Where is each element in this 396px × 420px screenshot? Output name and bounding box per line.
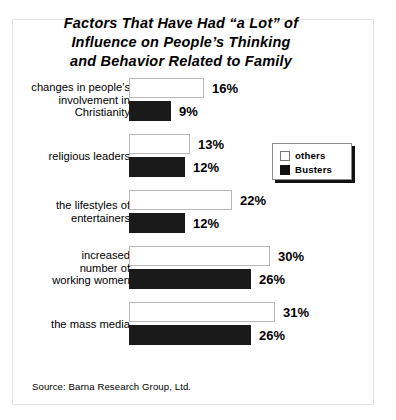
bar-value-busters: 26%: [259, 272, 285, 287]
chart-title-line-1: Factors That Have Had “a Lot” of: [20, 14, 342, 33]
bar-value-busters: 9%: [179, 104, 198, 119]
bar-others: [129, 246, 270, 266]
category-label: changes in people’s involvement in Chris…: [10, 81, 130, 119]
category-label: religious leaders: [10, 150, 130, 163]
bar-value-others: 31%: [283, 305, 309, 320]
bar-others: [129, 190, 232, 210]
bar-busters: [129, 213, 185, 233]
bar-busters: [129, 101, 171, 121]
chart-legend: others Busters: [272, 143, 352, 180]
bar-group: the mass media 31% 26%: [0, 301, 362, 347]
bar-chart-plot-area: changes in people’s involvement in Chris…: [0, 77, 362, 347]
bar-busters: [129, 269, 251, 289]
bar-value-busters: 26%: [259, 328, 285, 343]
source-note: Source: Barna Research Group, Ltd.: [32, 381, 191, 392]
bar-busters: [129, 325, 251, 345]
bar-pair: 16% 9%: [129, 77, 362, 123]
category-label: increased number of working women: [10, 249, 130, 287]
bar-pair: 31% 26%: [129, 301, 362, 347]
bar-group: the lifestyles of entertainers 22% 12%: [0, 189, 362, 235]
category-label: the lifestyles of entertainers: [10, 199, 130, 224]
bar-others: [129, 134, 190, 154]
legend-item-busters: Busters: [280, 163, 332, 176]
legend-swatch-icon: [280, 151, 290, 161]
bar-busters: [129, 157, 185, 177]
bar-value-busters: 12%: [193, 160, 219, 175]
bar-value-busters: 12%: [193, 216, 219, 231]
bar-group: changes in people’s involvement in Chris…: [0, 77, 362, 123]
bar-others: [129, 302, 275, 322]
bar-value-others: 13%: [198, 137, 224, 152]
legend-swatch-icon: [280, 165, 290, 175]
bar-value-others: 16%: [212, 81, 238, 96]
bar-others: [129, 78, 204, 98]
bar-group: increased number of working women 30% 26…: [0, 245, 362, 291]
chart-title-line-3: and Behavior Related to Family: [20, 52, 342, 71]
category-label: the mass media: [10, 318, 130, 331]
bar-pair: 30% 26%: [129, 245, 362, 291]
chart-title-line-2: Influence on People’s Thinking: [20, 33, 342, 52]
bar-value-others: 22%: [240, 193, 266, 208]
legend-label: Busters: [295, 164, 332, 175]
chart-title: Factors That Have Had “a Lot” of Influen…: [20, 14, 342, 71]
bar-value-others: 30%: [278, 249, 304, 264]
legend-item-others: others: [280, 149, 326, 162]
legend-label: others: [295, 150, 326, 161]
bar-pair: 22% 12%: [129, 189, 362, 235]
